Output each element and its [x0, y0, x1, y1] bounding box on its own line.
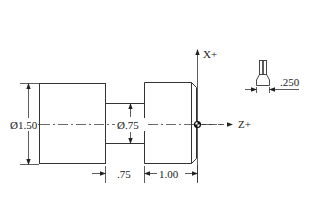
neck-length-label: .75 [117, 168, 131, 180]
large-cylinder [40, 84, 106, 164]
tool-width-label: .250 [280, 76, 300, 88]
z-axis-label: Z+ [238, 118, 251, 130]
neck-diameter-label: Ø.75 [117, 119, 139, 131]
cutting-tool [257, 61, 270, 86]
lathe-part-drawing: X+ Z+ Ø1.50 Ø.75 .75 1.00 [0, 0, 313, 198]
right-length-label: 1.00 [159, 168, 179, 180]
x-axis-label: X+ [203, 48, 217, 60]
right-cylinder [145, 83, 197, 164]
large-diameter-label: Ø1.50 [10, 119, 38, 131]
